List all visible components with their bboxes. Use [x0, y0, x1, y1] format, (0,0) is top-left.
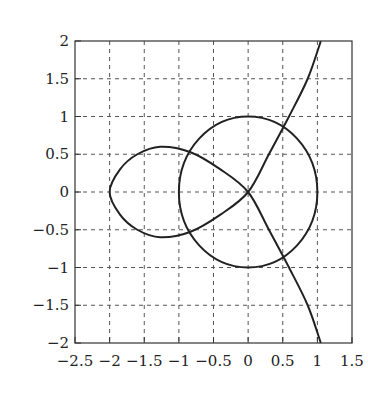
y-tick-label: 1.5: [45, 70, 69, 88]
x-tick-label: 0.5: [271, 352, 295, 370]
grid-lines: [75, 41, 352, 343]
y-tick-label: −1.5: [33, 296, 69, 314]
x-tick-labels: −2.5−2−1.5−1−0.500.511.5: [57, 352, 364, 370]
x-tick-label: −2: [99, 352, 121, 370]
x-tick-label: −0.5: [195, 352, 231, 370]
y-tick-label: −0.5: [33, 221, 69, 239]
x-tick-label: −2.5: [57, 352, 93, 370]
y-tick-label: 0: [59, 183, 69, 201]
chart: −2.5−2−1.5−1−0.500.511.5 21.510.50−0.5−1…: [0, 0, 368, 395]
y-tick-label: 0.5: [45, 145, 69, 163]
y-tick-label: −1: [47, 259, 69, 277]
y-tick-label: −2: [47, 334, 69, 352]
y-tick-label: 2: [59, 32, 69, 50]
y-tick-label: 1: [59, 108, 69, 126]
y-tick-labels: 21.510.50−0.5−1−1.5−2: [33, 32, 69, 352]
x-tick-label: 0: [243, 352, 253, 370]
x-tick-label: 1.5: [340, 352, 364, 370]
x-tick-label: 1: [313, 352, 323, 370]
x-tick-label: −1.5: [126, 352, 162, 370]
x-tick-label: −1: [168, 352, 190, 370]
